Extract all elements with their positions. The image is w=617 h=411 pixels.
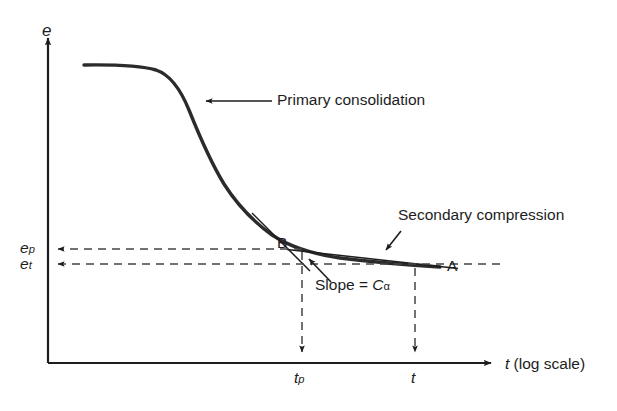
annotation-leaders bbox=[206, 101, 401, 282]
dashed-guides bbox=[58, 249, 500, 352]
consolidation-curve-figure: e t (log scale) ep et tp t B A Primary c… bbox=[0, 0, 617, 411]
x-axis-label-rest: (log scale) bbox=[509, 355, 585, 372]
slope-label-prefix: Slope = bbox=[315, 276, 372, 293]
y-tick-e-t-symbol: e bbox=[20, 255, 29, 272]
slope-label: Slope = Cα bbox=[315, 277, 390, 293]
primary-consolidation-label: Primary consolidation bbox=[277, 92, 425, 108]
y-tick-e-t-subscript: t bbox=[29, 259, 32, 271]
y-tick-e-t: et bbox=[20, 256, 32, 272]
slope-label-symbol: C bbox=[372, 276, 383, 293]
x-tick-t-p: tp bbox=[294, 370, 305, 386]
axis-lines bbox=[48, 38, 491, 363]
secondary-compression-label: Secondary compression bbox=[398, 207, 564, 223]
y-tick-e-p: ep bbox=[20, 240, 35, 256]
secondary-compression-leader bbox=[386, 231, 401, 250]
y-tick-e-p-symbol: e bbox=[20, 239, 29, 256]
x-tick-t: t bbox=[411, 370, 415, 386]
y-axis-label: e bbox=[42, 22, 51, 39]
y-tick-e-p-subscript: p bbox=[29, 243, 35, 255]
x-tick-t-p-subscript: p bbox=[298, 373, 304, 385]
point-a-label: A bbox=[447, 258, 457, 274]
secondary-tangent-line bbox=[287, 250, 458, 269]
x-axis-label: t (log scale) bbox=[505, 356, 585, 372]
slope-label-subscript: α bbox=[384, 280, 390, 292]
point-b-label: B bbox=[277, 235, 287, 251]
